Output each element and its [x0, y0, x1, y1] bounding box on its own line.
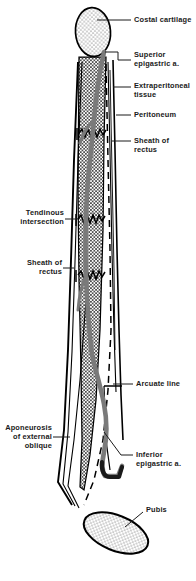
label-superior-epigastric-artery: Superior epigastric a. [134, 50, 179, 68]
label-pubis: Pubis [146, 505, 167, 514]
label-inferior-epigastric-artery: Inferior epigastric a. [136, 450, 181, 468]
label-aponeurosis-of-external-oblique: Aponeurosis of external oblique [2, 423, 52, 451]
label-sheath-of-rectus-lower: Sheath of rectus [6, 258, 62, 276]
label-peritoneum: Peritoneum [134, 110, 176, 119]
costal-cartilage-shape [74, 6, 112, 57]
leader-superior-epigastric [105, 52, 131, 60]
label-costal-cartilage: Costal cartilage [134, 15, 191, 24]
label-extraperitoneal-tissue: Extraperitoneal tissue [134, 81, 190, 99]
anatomical-diagram-canvas: Costal cartilage Superior epigastric a. … [0, 0, 196, 581]
label-arcuate-line: Arcuate line [136, 379, 180, 388]
label-sheath-of-rectus-upper: Sheath of rectus [134, 136, 169, 154]
inferior-epigastric-artery [92, 355, 122, 476]
label-tendinous-intersection: Tendinous intersection [6, 208, 64, 226]
